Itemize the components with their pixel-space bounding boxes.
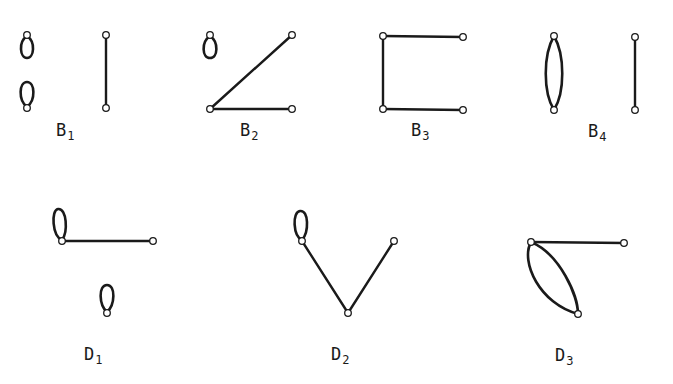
vertex <box>103 105 110 112</box>
double-edge <box>546 36 563 110</box>
edge <box>348 241 394 313</box>
graph-label-d1: D1 <box>84 344 102 367</box>
vertex <box>24 105 31 112</box>
vertex <box>380 106 387 113</box>
vertex <box>150 238 157 245</box>
vertex <box>575 311 582 318</box>
graph-b4: B4 <box>546 33 639 144</box>
vertex <box>391 238 398 245</box>
vertex <box>460 34 467 41</box>
loop-edge <box>21 82 34 107</box>
graph-b1: B1 <box>21 32 110 143</box>
vertex <box>207 32 214 39</box>
loop-edge <box>295 211 307 240</box>
graph-label-d3: D3 <box>555 345 573 368</box>
graph-label-b4: B4 <box>588 121 606 144</box>
loop-edge <box>53 209 65 240</box>
vertex <box>289 32 296 39</box>
vertex <box>380 33 387 40</box>
vertex <box>551 107 558 114</box>
vertex <box>632 34 639 41</box>
double-edge <box>528 242 578 314</box>
vertex <box>289 106 296 113</box>
vertex <box>207 106 214 113</box>
graph-d1: D1 <box>53 209 156 367</box>
graph-b2: B2 <box>204 32 296 143</box>
edge <box>383 36 463 37</box>
vertex <box>59 238 66 245</box>
vertex <box>551 33 558 40</box>
graph-d3: D3 <box>528 239 628 368</box>
loop-edge <box>204 36 217 58</box>
edge <box>210 35 292 109</box>
vertex <box>528 239 535 246</box>
vertex <box>632 107 639 114</box>
graph-b3: B3 <box>380 33 467 143</box>
vertex <box>621 240 628 247</box>
graph-label-b3: B3 <box>411 120 429 143</box>
graph-label-b1: B1 <box>56 120 74 143</box>
vertex <box>299 238 306 245</box>
loop-edge <box>21 36 33 58</box>
vertex <box>24 32 31 39</box>
graph-d2: D2 <box>295 211 398 367</box>
graph-label-d2: D2 <box>331 344 349 367</box>
vertex <box>103 32 110 39</box>
vertex <box>345 310 352 317</box>
edge <box>302 241 348 313</box>
loop-edge <box>101 285 114 312</box>
vertex <box>460 107 467 114</box>
graph-label-b2: B2 <box>240 120 258 143</box>
edge <box>383 109 463 110</box>
graph-figure: B1 B2 B3 B4 <box>0 0 673 384</box>
vertex <box>104 310 111 317</box>
edge <box>531 242 624 243</box>
